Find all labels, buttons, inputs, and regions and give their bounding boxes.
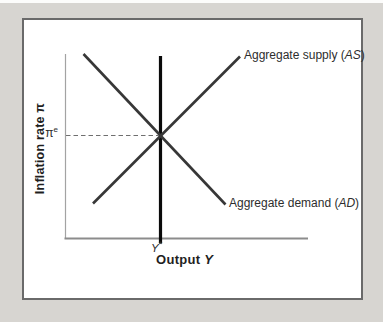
y-star-asterisk: * [159,239,163,249]
aggregate-demand-label-text: Aggregate demand ( [229,196,338,210]
x-axis-label-var: Y [204,252,213,267]
aggregate-demand-abbr: AD [338,196,355,210]
x-axis-label-word: Output [156,252,204,267]
x-axis-label: Output Y [156,253,213,267]
aggregate-supply-label: Aggregate supply (AS) [244,49,365,62]
pi-superscript-e: e [54,125,58,134]
aggregate-supply-label-text: Aggregate supply ( [244,48,345,62]
pi-symbol: π [45,126,53,140]
aggregate-supply-abbr: AS [345,48,361,62]
as-curve [93,57,240,204]
aggregate-demand-label: Aggregate demand (AD) [229,197,359,210]
y-axis-label: Inflation rate π [34,88,49,210]
aggregate-demand-label-close: ) [355,196,359,210]
aggregate-supply-label-close: ) [361,48,365,62]
pi-e-tick-label: πe [38,126,58,140]
page-background: Aggregate supply (AS) Aggregate demand (… [0,0,383,322]
ad-curve [84,54,226,205]
